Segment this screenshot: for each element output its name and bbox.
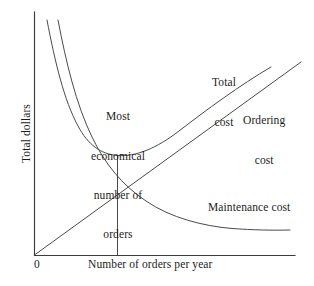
total-cost-label-line-2: cost (212, 116, 236, 129)
economical-annotation-line-3: number of (78, 189, 158, 202)
maintenance-cost-label: Maintenance cost (208, 201, 290, 214)
economical-annotation-line-2: economical (78, 150, 158, 163)
total-cost-label: Total cost (212, 50, 236, 155)
ordering-cost-label-line-2: cost (243, 154, 285, 167)
economical-annotation-line-4: orders (78, 228, 158, 241)
origin-label: 0 (34, 258, 40, 271)
y-axis-label: Total dollars (20, 104, 33, 163)
ordering-cost-label-line-1: Ordering (243, 114, 285, 127)
total-cost-label-line-1: Total (212, 76, 236, 89)
most-economical-annotation: Most economical number of orders (78, 84, 158, 268)
ordering-cost-label: Ordering cost (243, 88, 285, 193)
economical-annotation-line-1: Most (78, 110, 158, 123)
eoq-cost-curve-figure: Total dollars Number of orders per year … (0, 0, 314, 286)
